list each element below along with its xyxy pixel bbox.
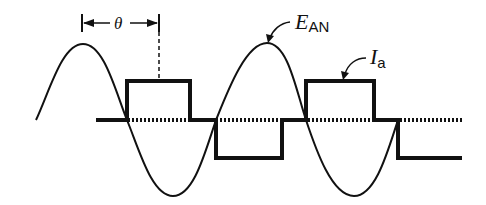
current-label-leader	[341, 58, 366, 80]
voltage-label-leader	[266, 22, 290, 43]
voltage-label-main: E	[294, 9, 309, 34]
voltage-label-sub: AN	[308, 18, 329, 35]
leader-arrowhead-icon	[266, 34, 274, 43]
waveform-diagram: θ EAN Ia	[0, 0, 486, 205]
leader-arrowhead-icon	[341, 71, 349, 80]
arrowhead-left-icon	[83, 19, 94, 27]
theta-label: θ	[114, 14, 122, 33]
current-label-sub: a	[377, 54, 386, 71]
current-label: Ia	[369, 44, 386, 71]
voltage-label: EAN	[294, 9, 329, 35]
current-square-wave	[96, 81, 462, 158]
arrowhead-right-icon	[147, 19, 158, 27]
